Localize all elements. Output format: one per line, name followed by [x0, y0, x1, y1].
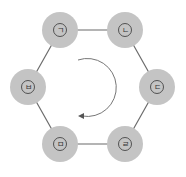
hexagon-edges: [28, 30, 157, 144]
node-5: ㅁ: [42, 126, 78, 162]
arrowhead-icon: [78, 113, 84, 119]
node-label: ㅁ: [57, 140, 64, 149]
rotation-arc: [78, 58, 116, 116]
node-label: ㅂ: [25, 83, 32, 92]
node-3: ㄷ: [139, 69, 175, 105]
node-label: ㄹ: [122, 140, 129, 149]
hexagon-cycle-diagram: ㄱ ㄴ ㄷ ㄹ ㅁ ㅂ: [0, 0, 186, 177]
node-4: ㄹ: [107, 126, 143, 162]
node-2: ㄴ: [107, 12, 143, 48]
node-label: ㄴ: [122, 26, 129, 35]
node-1: ㄱ: [42, 12, 78, 48]
node-label: ㄷ: [154, 83, 161, 92]
node-6: ㅂ: [10, 69, 46, 105]
node-label: ㄱ: [57, 26, 64, 35]
rotation-arrow: [78, 58, 116, 119]
